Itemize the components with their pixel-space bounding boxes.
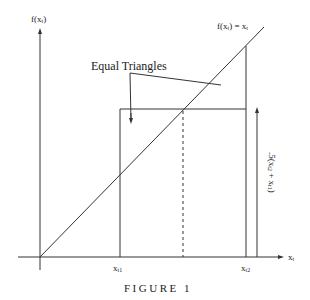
callout-label: Equal Triangles [91, 60, 167, 72]
y-axis-label: f(xt) [31, 15, 46, 24]
tick-label-xt2: xt2 [241, 264, 250, 273]
callout-line-right [130, 73, 221, 85]
height-label: .5(xt2 + xt1) [267, 152, 276, 193]
figure-1: f(xt) f(xt) = xt Equal Triangles xt1 xt2… [0, 0, 310, 300]
x-axis-label: xt [288, 253, 294, 262]
figure-caption: FIGURE 1 [124, 283, 192, 294]
tick-label-xt1: xt1 [113, 264, 122, 273]
diagram-canvas [0, 0, 310, 300]
identity-line-label: f(xt) = xt [217, 22, 248, 31]
